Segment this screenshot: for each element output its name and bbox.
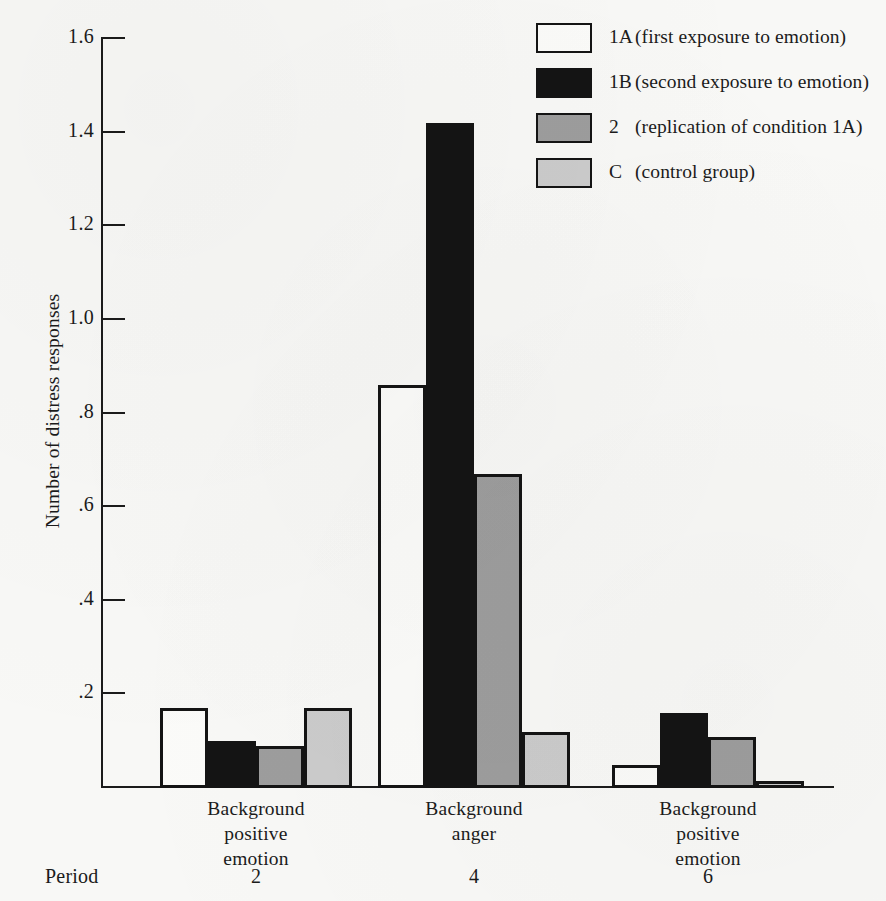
- bar: [208, 741, 256, 788]
- legend-description: (first exposure to emotion): [635, 26, 846, 47]
- y-tick-mark: [103, 412, 125, 414]
- y-tick-label: 1.6: [40, 26, 94, 46]
- legend-item: 2(replication of condition 1A): [536, 112, 886, 157]
- x-group-label: Backgroundpositiveemotion: [598, 796, 818, 871]
- legend-swatch: [536, 68, 592, 98]
- legend-swatch: [536, 158, 592, 188]
- bar: [522, 732, 570, 788]
- legend-description: (second exposure to emotion): [635, 71, 869, 92]
- bar: [256, 746, 304, 788]
- legend-swatch: [536, 23, 592, 53]
- y-tick-label: 1.4: [40, 120, 94, 140]
- bar: [612, 765, 660, 788]
- legend-code: 2: [609, 112, 635, 142]
- period-number: 6: [648, 865, 768, 887]
- x-group-label-line: Background: [598, 796, 818, 821]
- legend-description: (control group): [635, 161, 755, 182]
- legend-item: C(control group): [536, 157, 886, 202]
- period-number: 4: [414, 865, 534, 887]
- legend-label: 2(replication of condition 1A): [609, 112, 863, 142]
- y-tick-mark: [103, 692, 125, 694]
- x-group-label: Backgroundanger: [364, 796, 584, 846]
- y-tick-mark: [103, 37, 125, 39]
- y-tick-mark: [103, 599, 125, 601]
- y-axis-title: Number of distress responses: [42, 251, 64, 571]
- legend-item: 1A(first exposure to emotion): [536, 22, 886, 67]
- legend-code: 1B: [609, 67, 635, 97]
- x-group-label-line: Background: [146, 796, 366, 821]
- legend-label: 1B(second exposure to emotion): [609, 67, 869, 97]
- bar: [660, 713, 708, 788]
- bar: [304, 708, 352, 788]
- bar: [708, 737, 756, 788]
- bar: [756, 781, 804, 788]
- y-tick-mark: [103, 131, 125, 133]
- y-tick-label: .4: [40, 588, 94, 608]
- legend-label: 1A(first exposure to emotion): [609, 22, 846, 52]
- y-tick-mark: [103, 224, 125, 226]
- x-group-label: Backgroundpositiveemotion: [146, 796, 366, 871]
- y-tick-label: 1.2: [40, 213, 94, 233]
- bar: [474, 474, 522, 788]
- legend-code: C: [609, 157, 635, 187]
- legend-item: 1B(second exposure to emotion): [536, 67, 886, 112]
- x-group-label-line: positive: [598, 821, 818, 846]
- legend: 1A(first exposure to emotion)1B(second e…: [536, 22, 886, 202]
- x-group-label-line: positive: [146, 821, 366, 846]
- legend-code: 1A: [609, 22, 635, 52]
- bar: [160, 708, 208, 788]
- legend-label: C(control group): [609, 157, 755, 187]
- y-tick-mark: [103, 318, 125, 320]
- legend-swatch: [536, 113, 592, 143]
- figure-canvas: 1.61.41.21.0.8.6.4.2 Number of distress …: [0, 0, 886, 901]
- period-number: 2: [196, 865, 316, 887]
- bar: [426, 123, 474, 788]
- period-axis-label: Period: [45, 865, 98, 887]
- legend-description: (replication of condition 1A): [635, 116, 863, 137]
- x-group-label-line: Background: [364, 796, 584, 821]
- x-group-label-line: anger: [364, 821, 584, 846]
- y-tick-mark: [103, 505, 125, 507]
- y-tick-label: .2: [40, 681, 94, 701]
- bar: [378, 385, 426, 788]
